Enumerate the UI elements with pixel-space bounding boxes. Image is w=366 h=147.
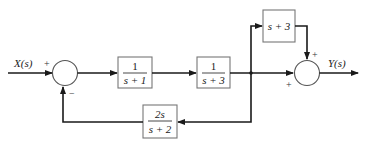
- block-g1: 1 s + 1: [118, 57, 152, 88]
- summing-junction-1: [53, 61, 78, 86]
- output-label: Y(s): [328, 57, 346, 70]
- g2-numerator: 1: [211, 60, 217, 72]
- h-numerator: 2s: [155, 108, 165, 120]
- wire-h-to-j1: [63, 87, 143, 122]
- wire-branch-to-g3: [251, 26, 262, 73]
- h-denominator: s + 2: [149, 123, 172, 135]
- block-diagram: X(s) + − 1 s + 1 1 s + 3 s + 3 + + Y(s): [0, 0, 366, 147]
- g3-expression: s + 3: [268, 20, 291, 32]
- junction1-minus-sign: −: [69, 88, 75, 99]
- g1-numerator: 1: [132, 60, 138, 72]
- block-g3: s + 3: [263, 10, 295, 42]
- junction2-top-sign: +: [312, 49, 318, 60]
- junction1-plus-sign: +: [44, 58, 50, 69]
- summing-junction-2: [295, 61, 320, 86]
- g2-denominator: s + 3: [202, 74, 225, 86]
- wire-g3-to-j2: [295, 26, 307, 59]
- block-h-feedback: 2s s + 2: [143, 105, 177, 138]
- block-g2: 1 s + 3: [197, 57, 230, 88]
- input-label: X(s): [13, 57, 33, 70]
- junction2-left-sign: +: [286, 79, 292, 90]
- g1-denominator: s + 1: [124, 74, 147, 86]
